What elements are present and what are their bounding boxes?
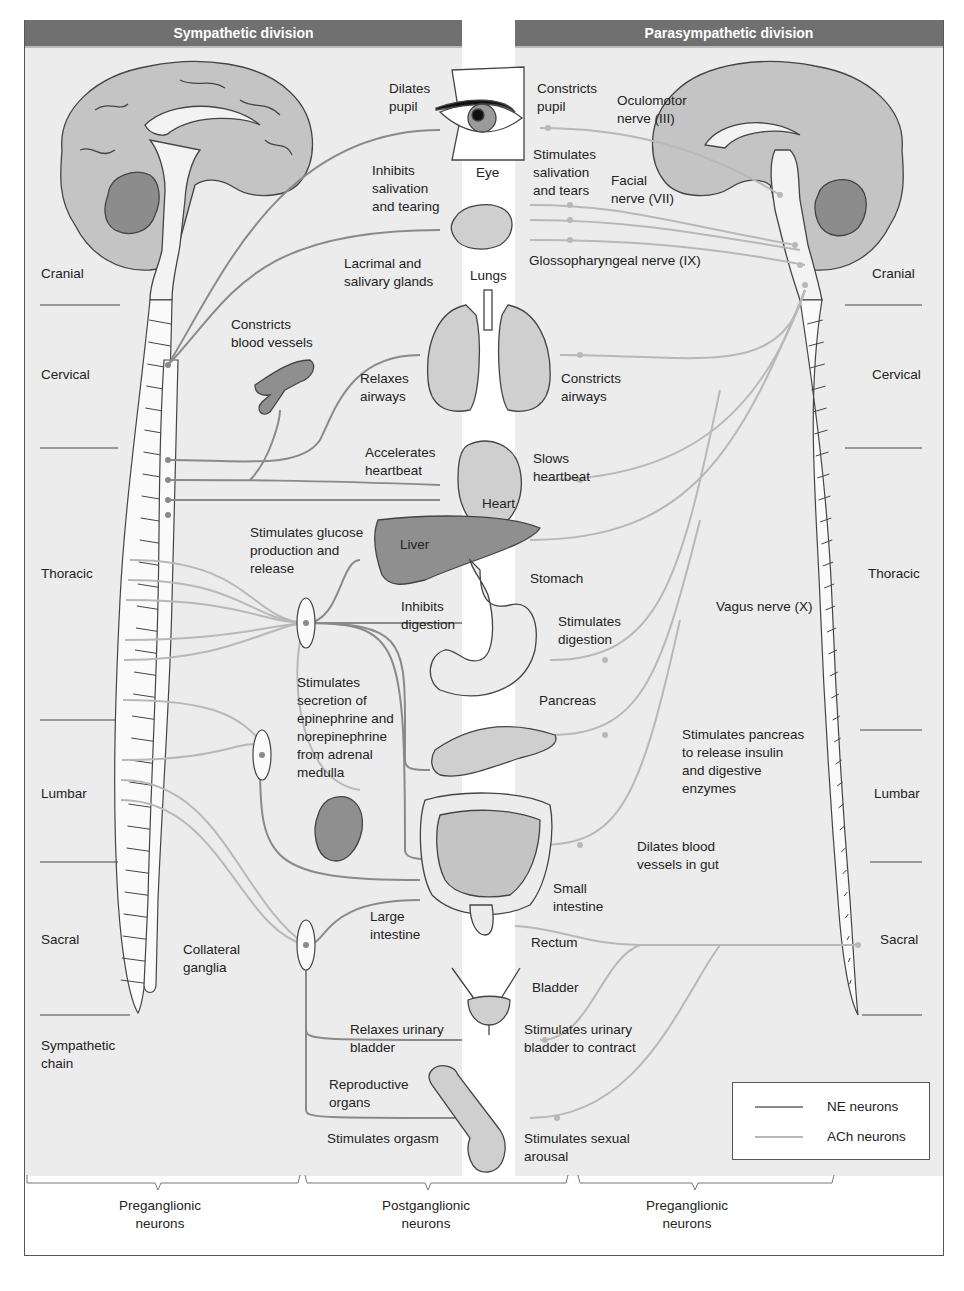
left-segment-lumbar: Lumbar: [41, 786, 87, 801]
effect-sexual-arousal: Stimulates sexual arousal: [524, 1130, 630, 1166]
left-segment-cervical: Cervical: [41, 367, 90, 382]
ne-line-swatch-icon: [755, 1106, 803, 1108]
effect-relaxes-airways: Relaxes airways: [360, 370, 409, 406]
organ-label-eye: Eye: [476, 164, 499, 182]
organ-label-small-intestine: Small intestine: [553, 880, 603, 916]
nerve-vagus: Vagus nerve (X): [716, 598, 813, 616]
effect-inhibits-digestion: Inhibits digestion: [401, 598, 455, 634]
legend-ach-label: ACh neurons: [827, 1129, 906, 1144]
label-collateral-ganglia: Collateral ganglia: [183, 941, 240, 977]
effect-constricts-pupil: Constricts pupil: [537, 80, 597, 116]
label-sympathetic-chain: Sympathetic chain: [41, 1037, 115, 1073]
eye-icon: [436, 67, 524, 160]
nerve-facial: Facial nerve (VII): [611, 172, 674, 208]
effect-constricts-vessels: Constricts blood vessels: [231, 316, 313, 352]
organ-label-pancreas: Pancreas: [539, 692, 596, 710]
effect-inhibits-salivation: Inhibits salivation and tearing: [372, 162, 440, 216]
left-brain-icon: [61, 62, 313, 300]
effect-bladder-contract: Stimulates urinary bladder to contract: [524, 1021, 636, 1057]
nerve-oculomotor: Oculomotor nerve (III): [617, 92, 687, 128]
effect-salivation: Stimulates salivation and tears: [533, 146, 596, 200]
left-segment-thoracic: Thoracic: [41, 566, 93, 581]
effect-adrenal: Stimulates secretion of epinephrine and …: [297, 674, 394, 782]
effect-dilates-pupil: Dilates pupil: [389, 80, 430, 116]
legend-row-ach: ACh neurons: [733, 1129, 906, 1144]
effect-stimulates-digestion: Stimulates digestion: [558, 613, 621, 649]
right-segment-lumbar: Lumbar: [874, 786, 920, 801]
nerve-glossopharyngeal: Glossopharyngeal nerve (IX): [529, 252, 701, 270]
right-segment-cranial: Cranial: [872, 266, 915, 281]
bottom-brackets: [27, 1175, 834, 1190]
effect-slows-heartbeat: Slows heartbeat: [533, 450, 590, 486]
organ-label-large-intestine: Large intestine: [370, 908, 420, 944]
effect-constricts-airways: Constricts airways: [561, 370, 621, 406]
left-segment-sacral: Sacral: [41, 932, 79, 947]
effect-pancreas-insulin: Stimulates pancreas to release insulin a…: [682, 726, 804, 798]
bracket-label-right-preganglionic: Preganglionic neurons: [627, 1197, 747, 1233]
bracket-label-left-preganglionic: Preganglionic neurons: [100, 1197, 220, 1233]
right-segment-thoracic: Thoracic: [868, 566, 920, 581]
right-spinal-cord: [800, 300, 858, 1015]
organ-label-rectum: Rectum: [531, 934, 578, 952]
organ-label-bladder: Bladder: [532, 979, 579, 997]
organ-label-liver: Liver: [400, 536, 429, 554]
legend-row-ne: NE neurons: [733, 1099, 898, 1114]
left-segment-cranial: Cranial: [41, 266, 84, 281]
legend: NE neurons ACh neurons: [732, 1082, 930, 1160]
right-segment-cervical: Cervical: [872, 367, 921, 382]
ach-line-swatch-icon: [755, 1136, 803, 1138]
right-segment-sacral: Sacral: [880, 932, 918, 947]
effect-relaxes-bladder: Relaxes urinary bladder: [350, 1021, 444, 1057]
organ-label-heart: Heart: [482, 495, 515, 513]
legend-ne-label: NE neurons: [827, 1099, 898, 1114]
organ-label-stomach: Stomach: [530, 570, 583, 588]
effect-accelerates-heartbeat: Accelerates heartbeat: [365, 444, 436, 480]
effect-dilates-gut-vessels: Dilates blood vessels in gut: [637, 838, 719, 874]
organ-label-lungs: Lungs: [470, 267, 507, 285]
organ-label-reproductive: Reproductive organs: [329, 1076, 409, 1112]
intestines-icon: [420, 793, 551, 935]
effect-glucose: Stimulates glucose production and releas…: [250, 524, 363, 578]
organ-label-glands: Lacrimal and salivary glands: [344, 255, 433, 291]
effect-orgasm: Stimulates orgasm: [327, 1130, 439, 1148]
bracket-label-postganglionic: Postganglionic neurons: [366, 1197, 486, 1233]
lacrimal-gland-icon: [451, 205, 512, 249]
blood-vessel-icon: [255, 360, 314, 414]
kidney-icon: [315, 797, 362, 861]
